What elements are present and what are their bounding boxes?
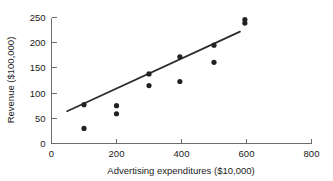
x-tick-label: 200 [109, 148, 125, 159]
data-point-marker [146, 71, 151, 76]
y-axis-title: Revenue ($100,000) [5, 37, 16, 124]
data-point-marker [242, 20, 247, 25]
x-tick-label: 600 [239, 148, 255, 159]
chart-canvas: 050100150200250 0200400600800 Advertisin… [0, 0, 333, 181]
y-tick-label: 0 [40, 138, 45, 149]
x-tick-label: 400 [174, 148, 190, 159]
y-tick-label: 200 [30, 37, 46, 48]
data-point-marker [211, 43, 216, 48]
data-point-marker [177, 54, 182, 59]
data-point-marker [81, 102, 86, 107]
data-point-marker [81, 126, 86, 131]
data-point-marker [211, 60, 216, 65]
y-tick-label: 50 [35, 113, 46, 124]
x-tick-label: 800 [304, 148, 320, 159]
y-tick-label: 250 [30, 12, 46, 23]
y-tick-label: 100 [30, 88, 46, 99]
x-axis-title: Advertising expenditures ($10,000) [107, 165, 254, 176]
data-point-marker [146, 83, 151, 88]
data-point-marker [114, 103, 119, 108]
data-point-marker [114, 111, 119, 116]
y-tick-label: 150 [30, 62, 46, 73]
scatter-plot-figure: 050100150200250 0200400600800 Advertisin… [0, 0, 333, 181]
x-tick-label: 0 [49, 148, 54, 159]
data-point-marker [177, 79, 182, 84]
